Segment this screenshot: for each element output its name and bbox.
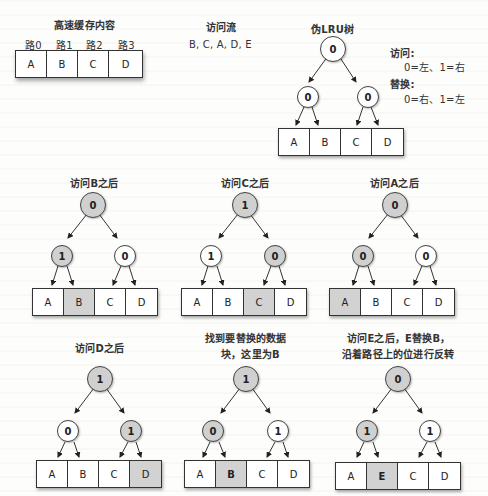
tree-left-node: 1 [51,245,73,267]
panel-initial-tree: 伪LRU树 0 0 0 A B C D [268,0,408,160]
tree-right-node: 1 [267,420,289,442]
cache-cell: D [372,129,403,155]
tree-right-node: 0 [415,245,437,267]
cache-cell: A [33,289,64,315]
cache-cell-highlighted: B [64,289,95,315]
cache-cell: B [361,289,392,315]
cache-cell: A [279,129,310,155]
cache-cell-victim: B [216,461,247,487]
cache-cell: D [429,463,460,489]
tree-root-node: 1 [232,192,258,218]
access-stream-title: 访问流 [206,19,237,34]
cache-contents-title: 高速缓存内容 [54,17,115,32]
tree-root-node: 1 [87,366,113,392]
cache-cell: D [126,289,157,315]
tree-left-node: 1 [200,245,222,267]
legend-access-rule: 0=左、1=右 [404,59,465,74]
cache-row: A B C D [181,288,307,316]
tree-right-node: 0 [264,245,286,267]
cache-cell: C [99,461,130,487]
tree-left-node: 0 [202,420,224,442]
tree-right-node: 1 [120,420,142,442]
cache-cell-replaced: E [367,463,398,489]
cache-cell: B [68,461,99,487]
tree-right-node: 0 [114,245,136,267]
cache-cell: C [341,129,372,155]
cache-cell-b: B [47,51,78,77]
cache-cell: C [398,463,429,489]
legend-replace-rule: 0=右、1=左 [404,91,465,106]
cache-cell: C [392,289,423,315]
cache-row: A B C D [184,460,310,488]
panel-after-a: 访问A之后 0 0 0 A B C D [326,170,466,320]
cache-cell: C [247,461,278,487]
cache-cell: A [185,461,216,487]
cache-cell-c: C [78,51,109,77]
access-stream: B, C, A, D, E [189,39,252,50]
cache-row: A B C D [329,288,455,316]
cache-cell: C [95,289,126,315]
cache-cell: D [278,461,309,487]
cache-cell-highlighted: D [130,461,161,487]
tree-root-node: 0 [385,366,411,392]
cache-cell: A [336,463,367,489]
panel-after-b: 访问B之后 0 1 0 A B C D [25,170,165,320]
tree-left-node: 0 [352,245,374,267]
cache-row: A B C D [278,128,404,156]
tree-left-node: 0 [57,420,79,442]
cache-cell-highlighted: C [244,289,275,315]
panel-after-d: 访问D之后 1 0 1 A B C D [30,330,170,496]
cache-cell: B [310,129,341,155]
cache-row: A E C D [335,462,461,490]
cache-row: A B C D [32,288,158,316]
cache-cell: D [423,289,454,315]
panel-after-e: 访问E之后，E替换B， 沿着路径上的位进行反转 0 1 1 A E C D [330,330,480,496]
tree-right-node: 0 [357,86,379,108]
cache-cell: D [275,289,306,315]
panel-find-victim: 找到要替换的数据 块，这里为B 1 0 1 A B C D [178,330,318,496]
cache-cell: A [182,289,213,315]
tree-root-node: 1 [233,366,259,392]
tree-right-node: 1 [419,420,441,442]
cache-cell-highlighted: A [330,289,361,315]
cache-row: A B C D [36,460,162,488]
cache-cell-d: D [109,51,142,77]
panel-after-c: 访问C之后 1 1 0 A B C D [176,170,316,320]
cache-cell: B [213,289,244,315]
tree-root-node: 0 [80,192,106,218]
tree-root-node: 0 [382,192,408,218]
cache-cell: A [37,461,68,487]
tree-left-node: 0 [297,86,319,108]
tree-left-node: 1 [356,420,378,442]
tree-root-node: 0 [320,36,346,62]
cache-cell-a: A [16,51,47,77]
cache-contents-row: A B C D [15,50,143,78]
